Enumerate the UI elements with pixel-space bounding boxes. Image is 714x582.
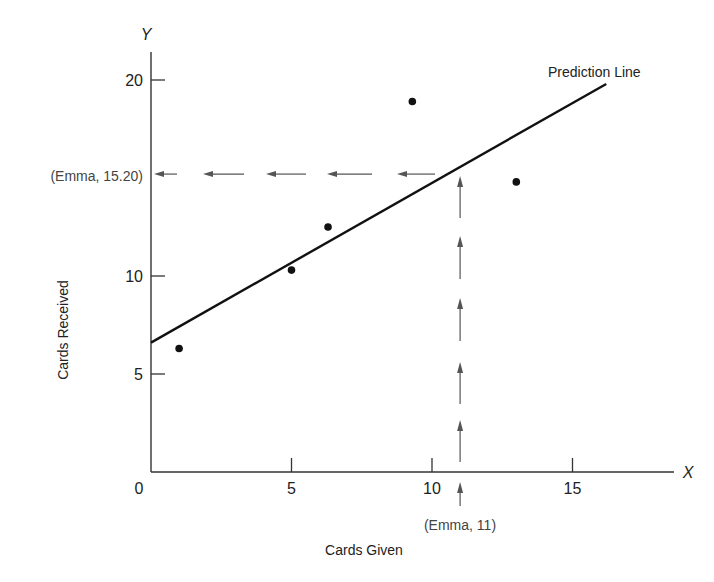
data-point (513, 178, 521, 186)
arrowhead-left-icon (154, 171, 164, 177)
x-axis-title: Cards Given (325, 542, 403, 558)
arrowhead-up-icon (457, 298, 463, 309)
y-tick-label: 5 (134, 366, 143, 383)
arrowhead-up-icon (457, 176, 463, 187)
arrowhead-up-icon (457, 482, 463, 493)
arrowhead-left-icon (266, 171, 276, 177)
x-tick-label: 5 (287, 480, 296, 497)
arrowhead-left-icon (327, 171, 337, 177)
arrowhead-up-icon (457, 236, 463, 247)
prediction-line-stroke (151, 84, 606, 343)
data-point (175, 345, 183, 353)
x-marker-label: (Emma, 11) (424, 517, 496, 533)
arrowhead-up-icon (457, 362, 463, 373)
y-axis-title: Cards Received (55, 280, 71, 380)
y-tick-label: 10 (125, 268, 143, 285)
data-point (324, 223, 332, 231)
arrowhead-up-icon (457, 420, 463, 431)
data-points (175, 98, 520, 353)
x-tick-label: 10 (423, 480, 441, 497)
data-point (409, 98, 417, 106)
emma-guide-arrows (154, 171, 463, 506)
x-axis-letter: X (682, 464, 695, 481)
scatter-chart: 5101551020 Y X 0 Prediction Line (Emma, … (0, 0, 714, 582)
y-tick-label: 20 (125, 72, 143, 89)
arrowhead-left-icon (203, 171, 213, 177)
origin-label: 0 (135, 480, 144, 497)
y-axis-letter: Y (141, 26, 153, 43)
data-point (288, 266, 296, 274)
axes (151, 52, 674, 472)
arrowhead-left-icon (397, 171, 407, 177)
prediction-line (151, 84, 606, 343)
x-tick-label: 15 (564, 480, 582, 497)
y-marker-label: (Emma, 15.20) (50, 168, 143, 184)
prediction-line-label: Prediction Line (548, 64, 641, 80)
